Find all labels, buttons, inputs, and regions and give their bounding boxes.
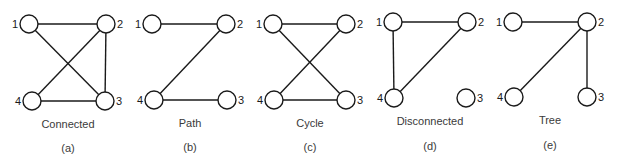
node-label-1: 1 bbox=[376, 16, 382, 28]
node-label-4: 4 bbox=[137, 94, 143, 106]
node-label-2: 2 bbox=[357, 18, 363, 30]
panel-cycle-graph: 1234Cycle(c) bbox=[256, 15, 363, 153]
node-3 bbox=[337, 91, 355, 109]
panel-caption: Disconnected bbox=[397, 115, 464, 127]
edge-1-3 bbox=[29, 24, 105, 101]
node-1 bbox=[504, 13, 522, 31]
node-3 bbox=[218, 91, 236, 109]
panel-connected-graph: 1234Connected(a) bbox=[12, 15, 123, 154]
node-label-2: 2 bbox=[117, 18, 123, 30]
node-label-4: 4 bbox=[497, 91, 503, 103]
panel-sublabel: (a) bbox=[61, 142, 74, 154]
node-1 bbox=[143, 15, 161, 33]
panel-sublabel: (b) bbox=[183, 141, 196, 153]
graph-types-diagram: 1234Connected(a) 1234Path(b) 1234Cycle(c… bbox=[0, 0, 618, 163]
node-label-3: 3 bbox=[357, 94, 363, 106]
node-label-2: 2 bbox=[478, 16, 484, 28]
edge-2-4 bbox=[154, 24, 226, 100]
node-label-1: 1 bbox=[496, 16, 502, 28]
graph-types-figure: 1234Connected(a) 1234Path(b) 1234Cycle(c… bbox=[0, 0, 618, 163]
node-4 bbox=[145, 91, 163, 109]
edge-2-4 bbox=[514, 22, 587, 97]
node-label-2: 2 bbox=[598, 16, 604, 28]
edge-1-4 bbox=[393, 22, 394, 98]
panel-caption: Path bbox=[179, 117, 202, 129]
panel-sublabel: (c) bbox=[304, 141, 317, 153]
node-2 bbox=[217, 15, 235, 33]
edge-2-3 bbox=[105, 24, 106, 101]
node-1 bbox=[384, 13, 402, 31]
node-label-1: 1 bbox=[135, 18, 141, 30]
node-label-3: 3 bbox=[477, 92, 483, 104]
node-label-3: 3 bbox=[598, 91, 604, 103]
node-4 bbox=[23, 92, 41, 110]
panel-sublabel: (e) bbox=[543, 139, 556, 151]
node-2 bbox=[97, 15, 115, 33]
node-4 bbox=[385, 89, 403, 107]
node-label-3: 3 bbox=[116, 95, 122, 107]
node-1 bbox=[20, 15, 38, 33]
panel-path-graph: 1234Path(b) bbox=[135, 15, 244, 153]
node-1 bbox=[264, 15, 282, 33]
node-3 bbox=[457, 89, 475, 107]
node-4 bbox=[265, 91, 283, 109]
node-4 bbox=[505, 88, 523, 106]
node-2 bbox=[337, 15, 355, 33]
panel-caption: Connected bbox=[41, 118, 94, 130]
node-label-1: 1 bbox=[12, 18, 18, 30]
node-3 bbox=[96, 92, 114, 110]
node-3 bbox=[578, 88, 596, 106]
panel-disconnected-graph: 1234Disconnected(d) bbox=[376, 13, 484, 152]
edge-2-4 bbox=[394, 22, 467, 98]
panel-caption: Tree bbox=[539, 114, 561, 126]
node-label-1: 1 bbox=[256, 18, 262, 30]
node-label-2: 2 bbox=[237, 18, 243, 30]
node-label-4: 4 bbox=[257, 94, 263, 106]
edge-2-4 bbox=[32, 24, 106, 101]
node-2 bbox=[578, 13, 596, 31]
node-label-3: 3 bbox=[238, 94, 244, 106]
node-label-4: 4 bbox=[377, 92, 383, 104]
panel-sublabel: (d) bbox=[423, 140, 436, 152]
panel-caption: Cycle bbox=[296, 117, 324, 129]
node-label-4: 4 bbox=[15, 95, 21, 107]
node-2 bbox=[458, 13, 476, 31]
panel-tree-graph: 1234Tree(e) bbox=[496, 13, 604, 151]
